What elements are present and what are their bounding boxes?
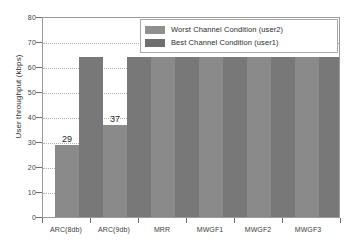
y-tick-label-20: 20 [16,164,36,171]
x-tick-mark-6 [340,218,341,223]
x-tick-mark-2 [138,218,139,223]
y-tick-label-10: 10 [16,189,36,196]
y-tick-label-40: 40 [16,114,36,121]
y-tick-label-50: 50 [16,89,36,96]
bar-mrr-worst [151,57,175,217]
bar-arc8db-best [79,57,103,217]
legend-swatch-worst-icon [145,26,165,34]
x-tick-mark-5 [282,218,283,223]
legend-label-worst: Worst Channel Condition (user2) [171,25,283,34]
y-tick-label-0: 0 [16,214,36,221]
x-tick-mark-0 [42,218,43,223]
y-tick-label-70: 70 [16,39,36,46]
legend-swatch-best-icon [145,39,165,47]
y-tick-label-60: 60 [16,64,36,71]
bar-mwgf3-best [319,57,339,217]
bar-arc8db-worst [55,145,79,218]
bar-mwgf1-best [223,57,247,217]
x-axis-label-mwgf3: MWGF3 [278,226,338,234]
bar-mwgf3-worst [295,57,319,217]
plot-frame: 29 37 Worst Channel Condition (user2) Be… [42,17,340,218]
legend-entry-best: Best Channel Condition (user1) [145,36,333,49]
bar-value-arc8db-worst: 29 [55,135,79,144]
bar-arc9db-worst [103,125,127,218]
bar-chart: User throughput (kbps) 80 70 60 50 40 30… [0,0,354,247]
bar-mrr-best [175,57,199,217]
bar-value-arc9db-worst: 37 [103,115,127,124]
bar-mwgf2-best [271,57,295,217]
bar-mwgf2-worst [247,57,271,217]
legend: Worst Channel Condition (user2) Best Cha… [140,19,338,53]
bar-arc9db-best [127,57,151,217]
x-tick-mark-4 [234,218,235,223]
legend-label-best: Best Channel Condition (user1) [171,38,279,47]
y-tick-label-30: 30 [16,139,36,146]
legend-entry-worst: Worst Channel Condition (user2) [145,23,333,36]
x-tick-mark-3 [186,218,187,223]
y-tick-label-80: 80 [16,14,36,21]
bar-mwgf1-worst [199,57,223,217]
x-tick-mark-1 [90,218,91,223]
